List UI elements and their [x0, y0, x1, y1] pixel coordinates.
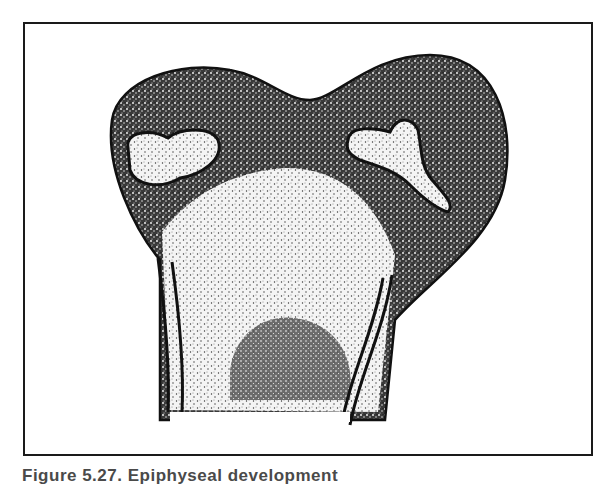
figure-caption: Figure 5.27. Epiphyseal development [22, 466, 338, 486]
